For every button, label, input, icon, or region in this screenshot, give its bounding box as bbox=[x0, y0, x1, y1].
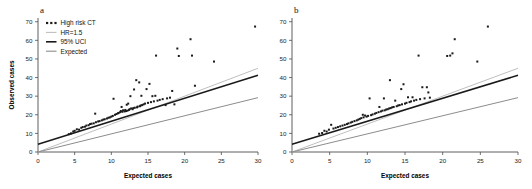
data-point bbox=[326, 131, 328, 133]
data-point bbox=[134, 107, 136, 109]
y-tick-label: 60 bbox=[26, 37, 33, 44]
data-point bbox=[426, 86, 428, 88]
y-tick-label: 30 bbox=[26, 92, 33, 99]
y-tick-label: 40 bbox=[26, 74, 33, 81]
data-point bbox=[415, 99, 417, 101]
data-point bbox=[148, 83, 150, 85]
y-tick-label: 10 bbox=[26, 130, 33, 137]
data-point bbox=[171, 90, 173, 92]
data-point bbox=[378, 111, 380, 113]
data-point bbox=[121, 106, 123, 108]
panel-a-plot: 010203040506070051015202530Expected case… bbox=[0, 0, 266, 189]
data-point bbox=[413, 100, 415, 102]
data-point bbox=[93, 122, 95, 124]
data-point bbox=[393, 106, 395, 108]
data-point bbox=[151, 95, 153, 97]
data-point bbox=[348, 122, 350, 124]
data-point bbox=[454, 38, 456, 40]
data-point bbox=[78, 129, 80, 131]
data-point bbox=[165, 104, 167, 106]
data-point bbox=[154, 95, 156, 97]
data-point bbox=[150, 101, 152, 103]
data-point bbox=[137, 106, 139, 108]
y-tick-label: 70 bbox=[280, 18, 287, 25]
data-point bbox=[190, 38, 192, 40]
y-tick-label: 50 bbox=[26, 55, 33, 62]
x-tick-label: 30 bbox=[255, 157, 262, 164]
x-tick-label: 15 bbox=[402, 157, 409, 164]
data-point bbox=[113, 98, 115, 100]
panel-b-plot: 010203040506070051015202530Expected case… bbox=[266, 0, 532, 189]
data-point bbox=[406, 102, 408, 104]
data-point bbox=[351, 121, 353, 123]
data-point bbox=[410, 100, 412, 102]
y-tick-label: 10 bbox=[280, 130, 287, 137]
data-point bbox=[74, 130, 76, 132]
data-point bbox=[155, 55, 157, 57]
data-point bbox=[421, 86, 423, 88]
data-point bbox=[449, 55, 451, 57]
data-point bbox=[389, 79, 391, 81]
data-point bbox=[360, 117, 362, 119]
data-point bbox=[372, 113, 374, 115]
data-point bbox=[418, 55, 420, 57]
reference-line-expected bbox=[292, 98, 518, 152]
data-point bbox=[332, 128, 334, 130]
data-point bbox=[169, 97, 171, 99]
x-tick-label: 10 bbox=[108, 157, 115, 164]
data-point bbox=[146, 88, 148, 90]
x-tick-label: 10 bbox=[364, 157, 371, 164]
legend-label: High risk CT bbox=[61, 19, 96, 27]
data-point bbox=[367, 115, 369, 117]
data-point bbox=[335, 127, 337, 129]
data-point bbox=[99, 120, 101, 122]
x-axis-title: Expected cases bbox=[381, 172, 429, 180]
legend: High risk CTHR=1.595% UCIExpected bbox=[46, 19, 96, 55]
data-point bbox=[166, 97, 168, 99]
data-point bbox=[76, 128, 78, 130]
data-point bbox=[162, 98, 164, 100]
data-point bbox=[153, 100, 155, 102]
data-point bbox=[133, 88, 135, 90]
data-point bbox=[394, 100, 396, 102]
data-point bbox=[383, 97, 385, 99]
x-tick-label: 20 bbox=[439, 157, 446, 164]
data-point bbox=[476, 61, 478, 63]
data-point bbox=[95, 121, 97, 123]
x-tick-label: 0 bbox=[36, 157, 40, 164]
y-tick-label: 40 bbox=[280, 74, 287, 81]
reference-line-expected bbox=[38, 98, 258, 152]
data-point bbox=[399, 104, 401, 106]
data-point bbox=[159, 99, 161, 101]
data-point bbox=[213, 61, 215, 63]
data-point bbox=[401, 103, 403, 105]
data-point bbox=[157, 100, 159, 102]
data-point bbox=[112, 115, 114, 117]
y-axis-title: Observed cases bbox=[8, 60, 15, 109]
data-point bbox=[68, 133, 70, 135]
data-point bbox=[194, 85, 196, 87]
data-point bbox=[147, 102, 149, 104]
data-point bbox=[178, 55, 180, 57]
y-tick-label: 50 bbox=[280, 55, 287, 62]
data-point bbox=[363, 116, 365, 118]
data-point bbox=[378, 106, 380, 108]
data-point bbox=[82, 126, 84, 128]
figure-container: a 010203040506070051015202530Expected ca… bbox=[0, 0, 532, 189]
data-point bbox=[339, 125, 341, 127]
data-point bbox=[412, 96, 414, 98]
panel-a: a 010203040506070051015202530Expected ca… bbox=[0, 0, 266, 189]
data-point bbox=[381, 110, 383, 112]
scatter-series-high-risk-ct bbox=[318, 26, 489, 135]
data-point bbox=[337, 126, 339, 128]
data-point bbox=[354, 120, 356, 122]
data-point bbox=[344, 124, 346, 126]
legend-marker-dots bbox=[54, 22, 56, 24]
panel-b: b 010203040506070051015202530Expected ca… bbox=[266, 0, 532, 189]
data-point bbox=[144, 103, 146, 105]
legend-label: HR=1.5 bbox=[61, 29, 83, 36]
reference-line-95-uci bbox=[292, 75, 518, 144]
data-point bbox=[487, 26, 489, 28]
x-tick-label: 5 bbox=[328, 157, 332, 164]
y-tick-label: 70 bbox=[26, 18, 33, 25]
